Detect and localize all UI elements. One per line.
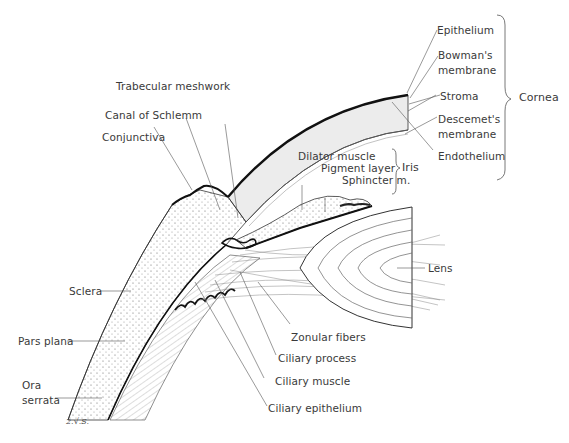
label-pars-plana: Pars plana: [18, 335, 74, 347]
label-ciliary-epithelium: Ciliary epithelium: [268, 402, 362, 414]
label-conjunctiva: Conjunctiva: [102, 131, 165, 143]
label-cornea: Cornea: [519, 92, 559, 104]
label-descemets-membrane: Descemet's membrane: [438, 112, 500, 142]
lens: [300, 207, 412, 328]
label-stroma: Stroma: [440, 90, 479, 102]
label-pigment-layer: Pigment layer: [321, 162, 395, 174]
label-dilator-muscle: Dilator muscle: [298, 150, 375, 162]
label-sclera: Sclera: [69, 285, 102, 297]
eye-anatomy-diagram: Epithelium Bowman's membrane Stroma Desc…: [0, 0, 569, 443]
label-endothelium: Endothelium: [438, 150, 505, 162]
label-ora-serrata: Ora serrata: [22, 378, 60, 408]
label-canal-of-schlemm: Canal of Schlemm: [105, 109, 202, 121]
label-ciliary-process: Ciliary process: [278, 352, 356, 364]
label-iris: Iris: [402, 162, 419, 174]
label-lens: Lens: [428, 262, 453, 274]
label-ciliary-muscle: Ciliary muscle: [275, 375, 350, 387]
artist-signature: 2.√.S.: [66, 417, 89, 426]
label-sphincter-m: Sphincter m.: [342, 174, 410, 186]
label-epithelium: Epithelium: [437, 24, 494, 36]
label-zonular-fibers: Zonular fibers: [291, 331, 366, 343]
label-trabecular-meshwork: Trabecular meshwork: [116, 80, 230, 92]
label-bowmans-membrane: Bowman's membrane: [438, 48, 496, 78]
